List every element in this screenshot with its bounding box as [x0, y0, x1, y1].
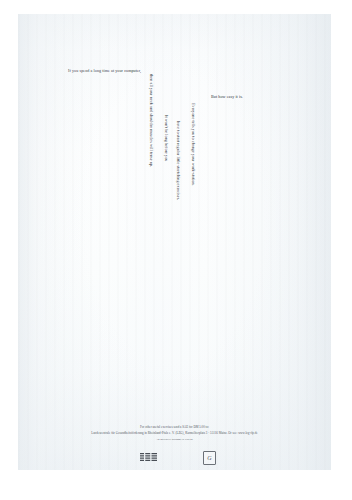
ad-body-line-4: Everyone tells you to change your work-s… — [191, 103, 195, 186]
scanned-page: If you spend a long time at your compute… — [0, 0, 352, 500]
paper-sheet — [18, 14, 331, 470]
ibm-logo — [140, 453, 161, 461]
footer-line-initiative: An initiative brought to you by — [18, 437, 331, 443]
logo-row: G — [18, 449, 331, 471]
ad-headline: If you spend a long time at your compute… — [68, 69, 141, 73]
footer-fineprint: For other useful exercises send a SAE fo… — [18, 425, 331, 443]
ad-body-line-2: It won't be long before you — [164, 115, 168, 162]
award-seal-logo: G — [203, 451, 216, 465]
ad-body-line-1: then all your neck and shoulder muscles … — [149, 74, 153, 167]
ad-body-line-3: have to start regular little stretching … — [176, 121, 180, 200]
award-seal-letter: G — [207, 455, 211, 461]
ad-closing-line: But how easy it is. — [211, 95, 243, 99]
